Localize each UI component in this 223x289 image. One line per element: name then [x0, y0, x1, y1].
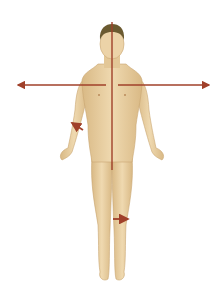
nipple-left — [124, 94, 126, 96]
nipple-right — [98, 94, 100, 96]
anatomical-figure — [0, 0, 223, 289]
left-leg — [112, 155, 132, 280]
right-leg — [92, 155, 112, 280]
